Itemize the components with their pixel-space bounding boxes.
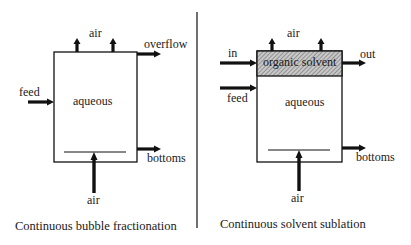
right-panel-caption: Continuous solvent sublation [220, 218, 366, 231]
left-feed-label: feed [19, 86, 40, 98]
left-air-top-label: air [89, 27, 102, 39]
right-air-bottom-label: air [291, 192, 304, 204]
left-feed-arrow-icon [28, 99, 54, 106]
left-overflow-arrow-icon [137, 51, 161, 58]
left-air-bottom-label: air [87, 194, 100, 206]
left-aqueous-label: aqueous [73, 95, 112, 107]
right-aqueous-label: aqueous [285, 96, 324, 108]
diagram-canvas [0, 0, 411, 245]
left-overflow-label: overflow [144, 38, 187, 50]
organic-solvent-label: organic solvent [263, 56, 336, 68]
left-bottoms-label: bottoms [147, 152, 186, 164]
right-in-arrow-icon [220, 60, 257, 67]
left-air-in-arrow-icon [91, 152, 98, 193]
left-panel-caption: Continuous bubble fractionation [15, 220, 177, 233]
right-air-top-label: air [287, 27, 300, 39]
right-in-label: in [228, 47, 237, 59]
right-feed-label: feed [227, 92, 248, 104]
left-air-out-arrows-icon [74, 38, 117, 52]
right-air-in-arrow-icon [296, 150, 303, 191]
right-bottoms-label: bottoms [356, 151, 395, 163]
right-out-label: out [360, 48, 375, 60]
